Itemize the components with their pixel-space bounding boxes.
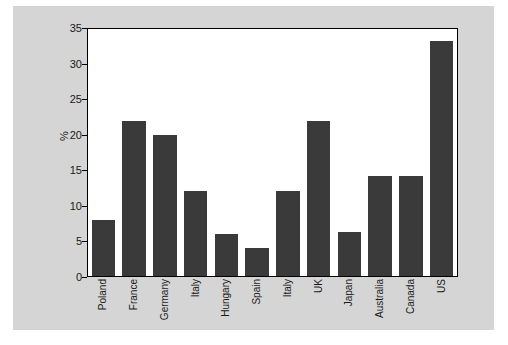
x-axis-tick-slot: UK (303, 279, 334, 335)
x-axis-tick-slot: France (119, 279, 150, 335)
y-axis-tick-label: 20 (70, 128, 82, 142)
x-axis-tick-label: Italy (191, 279, 201, 297)
bars-container (88, 29, 457, 276)
bar-slot (303, 29, 334, 276)
x-axis-tick-slot: Poland (88, 279, 119, 335)
bar-slot (150, 29, 181, 276)
x-axis-tick-label: UK (314, 279, 324, 293)
y-axis-tick-label: 30 (70, 57, 82, 71)
x-axis-tick-label: Poland (98, 279, 108, 310)
y-axis-tick-label: 35 (70, 21, 82, 35)
x-axis-tick-slot: Spain (242, 279, 273, 335)
bar[interactable] (307, 121, 330, 276)
chart-figure: % 05101520253035 PolandFranceGermanyItal… (0, 0, 508, 345)
bar-slot (242, 29, 273, 276)
y-axis-tick-mark (82, 170, 87, 171)
x-axis-tick-label: Hungary (221, 279, 231, 317)
x-axis-tick-slot: US (426, 279, 457, 335)
x-axis-tick-slot: Hungary (211, 279, 242, 335)
bar-slot (273, 29, 304, 276)
bar-slot (88, 29, 119, 276)
y-axis-tick-label: 15 (70, 163, 82, 177)
x-axis-tick-label: Canada (406, 279, 416, 314)
bar[interactable] (399, 176, 422, 276)
x-axis-tick-label: Spain (252, 279, 262, 305)
bar-slot (365, 29, 396, 276)
y-axis-tick-mark (82, 135, 87, 136)
bar-slot (396, 29, 427, 276)
x-axis-tick-label: US (437, 279, 447, 293)
bar-slot (334, 29, 365, 276)
y-axis-tick-label: 10 (70, 199, 82, 213)
bar[interactable] (338, 232, 361, 276)
x-axis-tick-slot: Japan (334, 279, 365, 335)
x-axis-tick-slot: Italy (273, 279, 304, 335)
bar[interactable] (184, 191, 207, 276)
y-axis-tick-mark (82, 28, 87, 29)
x-axis-tick-slot: Italy (180, 279, 211, 335)
bar[interactable] (153, 135, 176, 276)
y-axis-tick-mark (82, 241, 87, 242)
bar[interactable] (92, 220, 115, 276)
y-axis-tick-mark (82, 206, 87, 207)
x-axis-tick-label: Germany (160, 279, 170, 320)
bar-slot (119, 29, 150, 276)
bar[interactable] (430, 41, 453, 276)
bar[interactable] (122, 121, 145, 276)
y-axis-tick-label: 25 (70, 92, 82, 106)
x-axis-tick-slot: Australia (365, 279, 396, 335)
bar[interactable] (276, 191, 299, 276)
x-axis-tick-label: Australia (375, 279, 385, 318)
bar[interactable] (368, 176, 391, 276)
bar[interactable] (245, 248, 268, 276)
x-axis-tick-label: Japan (344, 279, 354, 306)
y-axis-tick-mark (82, 277, 87, 278)
plot-area (87, 28, 458, 277)
x-axis-tick-labels: PolandFranceGermanyItalyHungarySpainItal… (88, 279, 457, 335)
x-axis-tick-slot: Germany (150, 279, 181, 335)
bar[interactable] (215, 234, 238, 276)
x-axis-tick-label: France (129, 279, 139, 310)
y-axis-tick-mark (82, 64, 87, 65)
y-axis-tick-mark (82, 99, 87, 100)
y-axis-tick-labels: 05101520253035 (58, 21, 82, 283)
x-axis-tick-label: Italy (283, 279, 293, 297)
bar-slot (426, 29, 457, 276)
x-axis-tick-slot: Canada (396, 279, 427, 335)
bar-slot (211, 29, 242, 276)
bar-slot (180, 29, 211, 276)
